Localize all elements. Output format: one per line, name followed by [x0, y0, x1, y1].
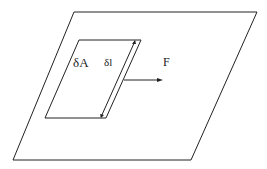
- force-arrowhead: [157, 78, 163, 82]
- displacement-edge-line: [101, 41, 135, 117]
- outer-surface-plane: [13, 12, 257, 160]
- length-label: δl: [104, 56, 112, 68]
- displacement-arrowhead-bottom: [100, 114, 104, 118]
- surface-element-area: [45, 40, 141, 118]
- displacement-arrowhead-top: [132, 40, 136, 44]
- force-label: F: [163, 56, 170, 68]
- diagram-canvas: [0, 0, 267, 169]
- area-label: δA: [73, 57, 89, 69]
